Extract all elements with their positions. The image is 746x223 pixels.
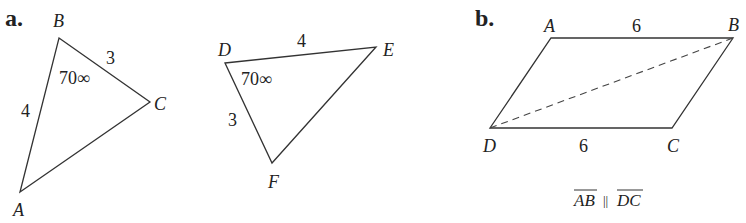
- triangle-def: [225, 47, 376, 163]
- parallel-caption: AB || DC: [573, 190, 643, 210]
- caption-parallel-symbol: ||: [603, 193, 608, 208]
- caption-segment-ab: AB: [573, 191, 595, 210]
- side-de-length: 4: [297, 31, 306, 51]
- angle-d-measure: 70∞: [241, 69, 272, 89]
- side-dc-length-b: 6: [579, 136, 588, 156]
- vertex-f-label: F: [267, 172, 280, 192]
- vertex-a-label-b: A: [543, 16, 556, 36]
- side-ab-length-b: 6: [632, 16, 641, 36]
- vertex-e-label: E: [382, 40, 394, 60]
- angle-b-measure: 70∞: [59, 68, 90, 88]
- side-df-length: 3: [228, 110, 237, 130]
- vertex-d-label: D: [217, 40, 231, 60]
- triangle-abc: [20, 38, 150, 192]
- side-ab-length: 4: [21, 101, 30, 121]
- vertex-d-label-b: D: [482, 136, 496, 156]
- part-b-label: b.: [475, 5, 494, 31]
- part-a-label: a.: [5, 5, 23, 31]
- vertex-b-label: B: [53, 11, 64, 31]
- vertex-a-label: A: [12, 200, 25, 220]
- vertex-c-label: C: [154, 94, 167, 114]
- geometry-diagram: a. B C A 3 4 70∞ D E F 4 3 70∞ b. A B C …: [0, 0, 746, 223]
- caption-segment-dc: DC: [616, 191, 641, 210]
- side-bc-length: 3: [106, 48, 115, 68]
- vertex-b-label-b: B: [728, 15, 739, 35]
- diagonal-db: [490, 38, 733, 128]
- vertex-c-label-b: C: [667, 136, 680, 156]
